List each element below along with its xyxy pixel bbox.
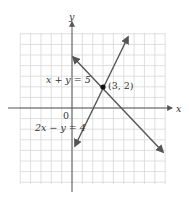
coordinate-plane: x y 0 x + y = 5 2x − y = 4 (3, 2) bbox=[0, 0, 189, 197]
origin-label: 0 bbox=[63, 110, 69, 121]
intersection-point bbox=[100, 84, 105, 89]
y-axis-label: y bbox=[68, 11, 75, 22]
x-axis-label: x bbox=[176, 103, 182, 114]
graph: x y 0 x + y = 5 2x − y = 4 (3, 2) bbox=[0, 0, 189, 197]
line-x-plus-y-eq-5 bbox=[73, 57, 163, 152]
line2-label: 2x − y = 4 bbox=[34, 122, 86, 133]
point-label: (3, 2) bbox=[108, 80, 134, 91]
line1-label: x + y = 5 bbox=[46, 74, 91, 85]
